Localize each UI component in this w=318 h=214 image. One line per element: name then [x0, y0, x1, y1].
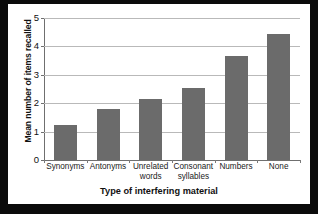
x-category-label: Numbers: [215, 162, 258, 172]
x-category-label-line: Numbers: [215, 162, 258, 172]
bar: [97, 109, 120, 160]
chart-figure: Mean number of items recalled 012345 Syn…: [0, 0, 318, 214]
x-category-label-line: Antonyms: [87, 162, 130, 172]
y-axis-title: Mean number of items recalled: [23, 16, 33, 146]
x-category-label: Antonyms: [87, 162, 130, 172]
bar: [139, 99, 162, 160]
y-tick-mark: [41, 132, 44, 133]
y-tick-label: 1: [34, 127, 39, 137]
gridline: [44, 46, 300, 47]
plot-area: 012345: [44, 18, 300, 160]
y-tick-label: 2: [34, 98, 39, 108]
y-tick-label: 3: [34, 70, 39, 80]
bar: [225, 56, 248, 160]
x-category-label-line: Unrelated: [129, 162, 172, 172]
gridline: [44, 132, 300, 133]
x-category-label: Unrelatedwords: [129, 162, 172, 181]
bar: [182, 88, 205, 160]
y-tick-mark: [41, 103, 44, 104]
gridline: [44, 18, 300, 19]
x-axis-category-labels: SynonymsAntonymsUnrelatedwordsConsonants…: [44, 162, 300, 186]
x-category-label: Consonantsyllables: [172, 162, 215, 181]
x-category-label-line: words: [129, 172, 172, 182]
y-tick-label: 0: [34, 155, 39, 165]
x-category-label-line: Consonant: [172, 162, 215, 172]
gridline: [44, 103, 300, 104]
y-tick-mark: [41, 46, 44, 47]
y-tick-mark: [41, 18, 44, 19]
x-category-label-line: syllables: [172, 172, 215, 182]
bar: [54, 125, 77, 161]
x-category-label-line: None: [257, 162, 300, 172]
y-tick-label: 4: [34, 42, 39, 52]
x-axis-title: Type of interfering material: [8, 186, 310, 196]
y-tick-label: 5: [34, 13, 39, 23]
bar: [267, 34, 290, 160]
x-tick-mark: [300, 160, 301, 163]
x-category-label: Synonyms: [44, 162, 87, 172]
y-axis-line: [44, 18, 45, 160]
y-tick-mark: [41, 75, 44, 76]
x-category-label-line: Synonyms: [44, 162, 87, 172]
chart-card: Mean number of items recalled 012345 Syn…: [8, 4, 310, 204]
gridline: [44, 75, 300, 76]
x-category-label: None: [257, 162, 300, 172]
